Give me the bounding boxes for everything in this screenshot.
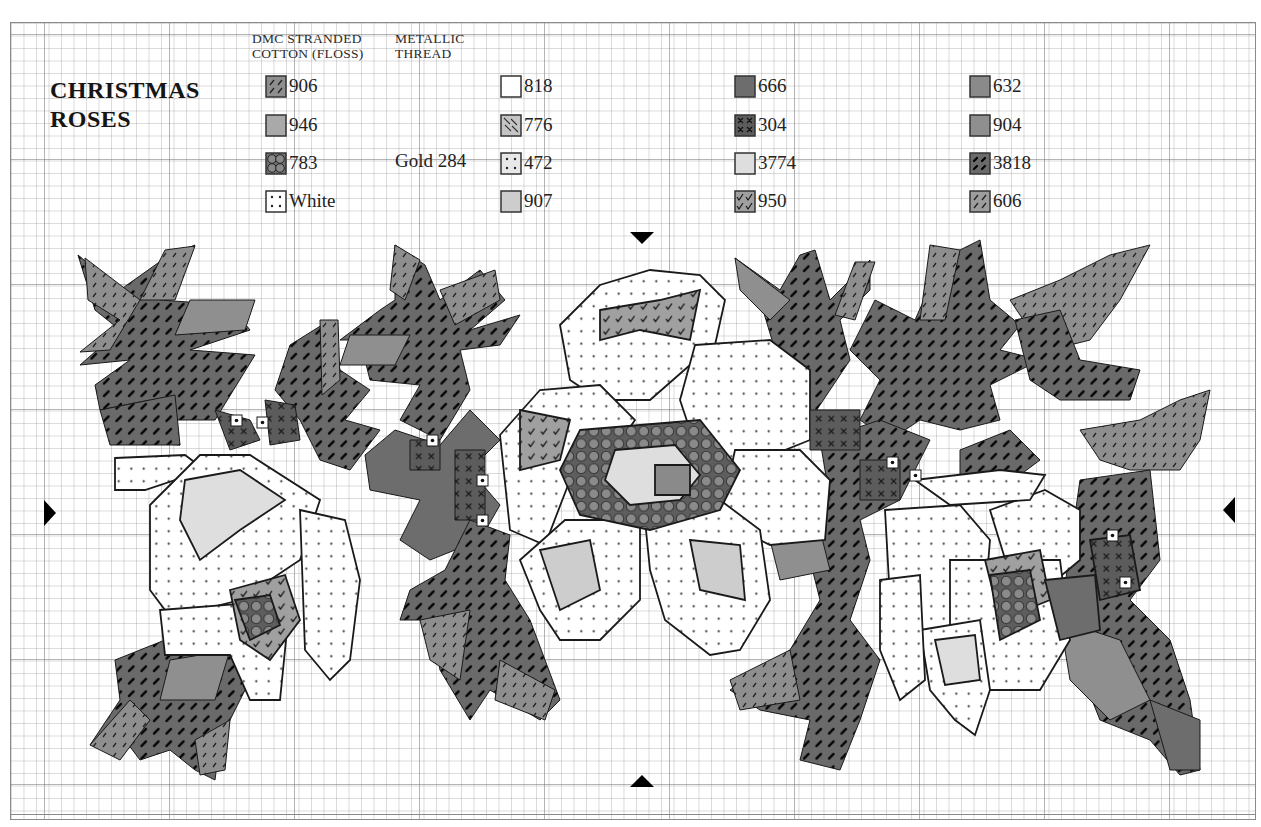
rose-petal — [915, 470, 1045, 505]
rose-petal — [300, 510, 360, 680]
berry-dot-icon — [481, 479, 485, 483]
berry-dot-icon — [431, 439, 435, 443]
berry-dot-icon — [914, 474, 918, 478]
holly-leaf — [1080, 390, 1210, 470]
berry-cluster — [265, 400, 300, 445]
berry-dot-icon — [261, 421, 265, 425]
berry-dot-icon — [1111, 534, 1115, 538]
holly-leaf — [730, 650, 800, 710]
center-marker-bottom-icon — [630, 775, 654, 787]
berry-cluster — [810, 410, 860, 450]
berry-dot-icon — [235, 419, 239, 423]
berry-dot-icon — [1124, 581, 1128, 585]
rose-petal — [1090, 535, 1140, 600]
berry-dot-icon — [891, 461, 895, 465]
center-marker-top-icon — [630, 232, 654, 244]
berry-dot-icon — [481, 519, 485, 523]
christmas-roses-motif — [0, 0, 1261, 827]
rose-petal — [880, 575, 925, 700]
center-marker-right-icon — [1223, 497, 1235, 523]
center-marker-left-icon — [44, 500, 56, 526]
rose-petal — [655, 465, 690, 495]
